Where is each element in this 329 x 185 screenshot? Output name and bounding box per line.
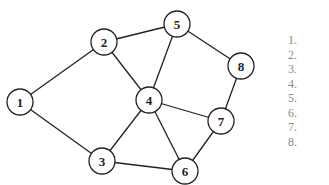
node-3: 3 bbox=[89, 148, 115, 174]
node-8: 8 bbox=[228, 53, 254, 79]
graph-diagram: 12345678 bbox=[0, 0, 260, 185]
svg-text:8: 8 bbox=[238, 59, 245, 74]
graph-nodes: 12345678 bbox=[7, 11, 254, 184]
svg-text:1: 1 bbox=[17, 95, 24, 110]
node-5: 5 bbox=[164, 11, 190, 37]
list-item: 5. bbox=[288, 91, 297, 106]
graph-edges bbox=[20, 24, 241, 171]
svg-text:3: 3 bbox=[99, 154, 106, 169]
list-item: 1. bbox=[288, 33, 297, 48]
list-item: 4. bbox=[288, 77, 297, 92]
node-6: 6 bbox=[172, 158, 198, 184]
svg-text:4: 4 bbox=[146, 93, 153, 108]
list-item: 2. bbox=[288, 48, 297, 63]
node-2: 2 bbox=[91, 29, 117, 55]
list-item: 8. bbox=[288, 135, 297, 150]
node-4: 4 bbox=[136, 87, 162, 113]
list-item: 6. bbox=[288, 106, 297, 121]
list-item: 3. bbox=[288, 62, 297, 77]
svg-text:6: 6 bbox=[182, 164, 189, 179]
edge-1-3 bbox=[20, 102, 102, 161]
numbered-list: 1. 2. 3. 4. 5. 6. 7. 8. bbox=[288, 33, 297, 149]
list-item: 7. bbox=[288, 120, 297, 135]
edge-1-2 bbox=[20, 42, 104, 102]
svg-text:7: 7 bbox=[218, 114, 225, 129]
svg-text:2: 2 bbox=[101, 35, 108, 50]
svg-text:5: 5 bbox=[174, 17, 181, 32]
node-7: 7 bbox=[208, 108, 234, 134]
node-1: 1 bbox=[7, 89, 33, 115]
